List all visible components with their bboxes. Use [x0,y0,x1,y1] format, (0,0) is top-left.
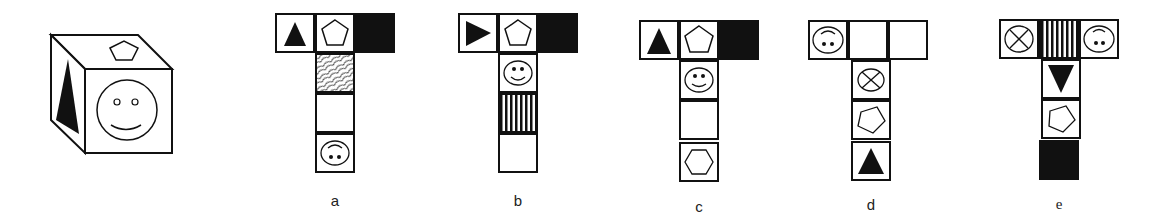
net-cell [275,13,315,53]
net-cell [315,133,355,173]
crosshatch-pattern [317,55,353,91]
net-cell [719,20,759,60]
net-cell [458,13,498,53]
triangle-icon [466,21,491,46]
option-label: b [498,192,538,209]
net-cell [315,13,355,53]
hexagon-icon [685,150,713,174]
net-cell [498,133,538,173]
net-cell [315,93,355,133]
reference-cube [48,32,178,157]
net-cell [1039,19,1079,59]
net-cell [679,20,719,60]
triangle-icon [858,148,884,174]
net-cell [498,53,538,93]
net-cell [679,100,719,140]
smiley-icon [504,61,532,85]
option-label: e [1039,196,1079,213]
vertical-stripes-pattern [500,95,536,131]
option-label: c [679,198,719,215]
option-label: d [851,196,891,213]
net-cell [538,13,578,53]
net-cell [808,20,848,60]
net-cell [1039,140,1079,180]
net-cell [851,141,891,181]
net-cell [639,20,679,60]
smiley-icon [685,68,713,92]
net-cell [999,19,1039,59]
triangle-icon [647,28,671,54]
vertical-stripes-pattern [1041,21,1077,57]
net-cell [1041,99,1081,139]
triangle-icon [1048,65,1074,93]
net-cell [848,20,888,60]
option-label: a [315,192,355,209]
pentagon-icon [858,107,885,133]
net-cell [679,142,719,182]
net-cell [355,13,395,53]
pentagon-icon [685,26,713,52]
pentagon-icon [322,20,348,45]
net-cell [498,13,538,53]
triangle-icon [284,22,306,46]
net-cell [315,53,355,93]
net-cell [1041,59,1081,99]
net-cell [498,93,538,133]
net-cell [851,60,891,100]
net-cell [1079,19,1119,59]
net-cell [679,60,719,100]
pentagon-icon [1049,106,1075,132]
net-cell [888,20,928,60]
net-cell [851,100,891,140]
pentagon-icon [505,20,531,45]
